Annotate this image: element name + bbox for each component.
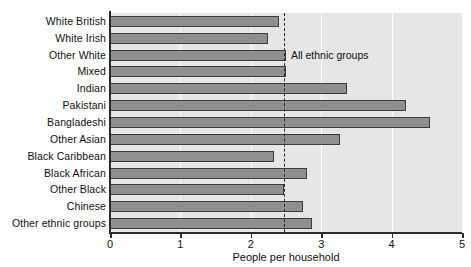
bar [110,66,286,77]
x-axis-title: People per household [110,251,462,264]
bar [110,50,286,61]
bar [110,16,279,27]
category-label: Chinese [0,201,106,212]
x-tick-label: 5 [459,238,465,251]
bar [110,201,303,212]
category-label: Bangladeshi [0,117,106,128]
category-label: White British [0,16,106,27]
x-tick-label: 2 [248,238,254,251]
bar [110,134,340,145]
bar [110,100,406,111]
category-axis: White BritishWhite IrishOther WhiteMixed… [0,13,106,232]
category-label: Indian [0,83,106,94]
category-label: Other Asian [0,134,106,145]
bar [110,151,274,162]
category-label: Other Black [0,184,106,195]
y-axis-line [109,11,111,234]
gridline-5 [462,13,463,232]
all-ethnic-groups-reference-line [284,13,285,232]
category-label: Other White [0,50,106,61]
x-tick-label: 0 [107,238,113,251]
category-label: Pakistani [0,100,106,111]
bar [110,117,430,128]
bar [110,184,284,195]
x-tick-label: 3 [318,238,324,251]
bar [110,218,312,229]
x-axis-line [109,232,462,234]
bar-chart: White BritishWhite IrishOther WhiteMixed… [0,0,471,267]
category-label: Other ethnic groups [0,218,106,229]
x-tick-label: 1 [177,238,183,251]
category-label: Mixed [0,66,106,77]
category-label: Black Caribbean [0,151,106,162]
bar [110,33,268,44]
reference-line-label: All ethnic groups [291,49,369,61]
x-tick-label: 4 [389,238,395,251]
bar [110,83,347,94]
category-label: Black African [0,168,106,179]
plot-area [110,13,462,232]
category-label: White Irish [0,33,106,44]
bar [110,168,307,179]
